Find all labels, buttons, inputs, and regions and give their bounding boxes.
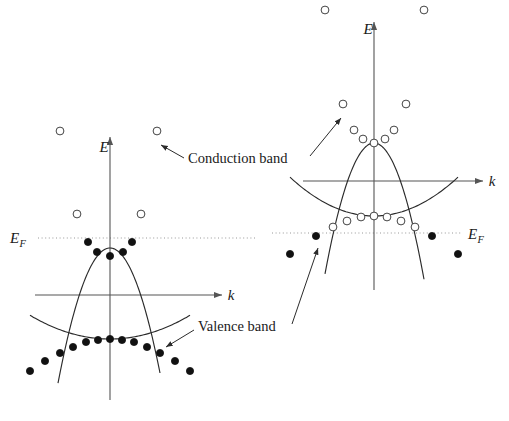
k-axis-label: k <box>489 173 496 189</box>
occupied-state-marker <box>84 238 91 245</box>
occupied-state-marker <box>82 338 89 345</box>
occupied-state-marker <box>428 232 435 239</box>
occupied-state-marker <box>106 335 113 342</box>
occupied-state-marker <box>94 336 101 343</box>
energy-axis-label: E <box>362 21 372 37</box>
unoccupied-state-marker <box>153 127 161 135</box>
occupied-state-marker <box>186 367 193 374</box>
unoccupied-state-marker <box>73 210 81 218</box>
unoccupied-state-marker <box>402 100 410 108</box>
conduction-band-callout-leader <box>310 118 341 156</box>
occupied-state-marker <box>143 343 150 350</box>
unoccupied-state-marker <box>381 135 389 143</box>
valence-band-callout: Valence band <box>166 248 318 347</box>
occupied-state-marker <box>56 349 63 356</box>
unoccupied-state-marker <box>370 139 378 147</box>
band-diagram-canvas: kEEFkEEF Conduction bandValence band <box>0 0 509 421</box>
occupied-state-marker <box>41 357 48 364</box>
occupied-state-marker <box>118 336 125 343</box>
occupied-state-marker <box>130 338 137 345</box>
valence-band-callout-leader <box>292 248 318 324</box>
unoccupied-state-marker <box>329 223 337 231</box>
unoccupied-state-marker <box>357 213 365 221</box>
unoccupied-state-marker <box>56 127 64 135</box>
occupied-state-marker <box>454 250 461 257</box>
callouts-layer: Conduction bandValence band <box>161 118 341 347</box>
k-axis-label: k <box>228 287 235 303</box>
unoccupied-state-marker <box>370 212 378 220</box>
valence-band-callout-label: Valence band <box>198 318 276 334</box>
panels-layer: kEEFkEEF <box>9 6 496 400</box>
occupied-state-marker <box>156 349 163 356</box>
unoccupied-state-marker <box>137 210 145 218</box>
unoccupied-state-marker <box>397 217 405 225</box>
unoccupied-state-marker <box>359 135 367 143</box>
occupied-state-marker <box>171 357 178 364</box>
fermi-level-label: EF <box>467 226 485 245</box>
unoccupied-state-marker <box>420 6 428 14</box>
occupied-state-marker <box>26 367 33 374</box>
valence-band-callout-leader <box>166 330 194 347</box>
left-panel: kEEF <box>9 127 255 400</box>
conduction-band-callout: Conduction band <box>161 118 341 166</box>
occupied-state-marker <box>128 238 135 245</box>
occupied-state-marker <box>69 343 76 350</box>
conduction-band-callout-leader <box>161 145 184 158</box>
conduction-band-callout-label: Conduction band <box>188 150 288 166</box>
unoccupied-state-marker <box>390 126 398 134</box>
occupied-state-marker <box>312 232 319 239</box>
energy-axis-label: E <box>98 139 108 155</box>
unoccupied-state-marker <box>339 100 347 108</box>
unoccupied-state-marker <box>350 126 358 134</box>
unoccupied-state-marker <box>383 213 391 221</box>
occupied-state-marker <box>286 250 293 257</box>
fermi-level-label: EF <box>9 230 27 249</box>
band-structure-figure: kEEFkEEF Conduction bandValence band <box>0 0 509 421</box>
unoccupied-state-marker <box>321 6 329 14</box>
occupied-state-marker <box>119 248 126 255</box>
occupied-state-marker <box>106 252 113 259</box>
conduction-band-curve <box>58 248 160 383</box>
unoccupied-state-marker <box>343 217 351 225</box>
right-panel: kEEF <box>272 6 496 290</box>
occupied-state-marker <box>93 248 100 255</box>
unoccupied-state-marker <box>411 223 419 231</box>
